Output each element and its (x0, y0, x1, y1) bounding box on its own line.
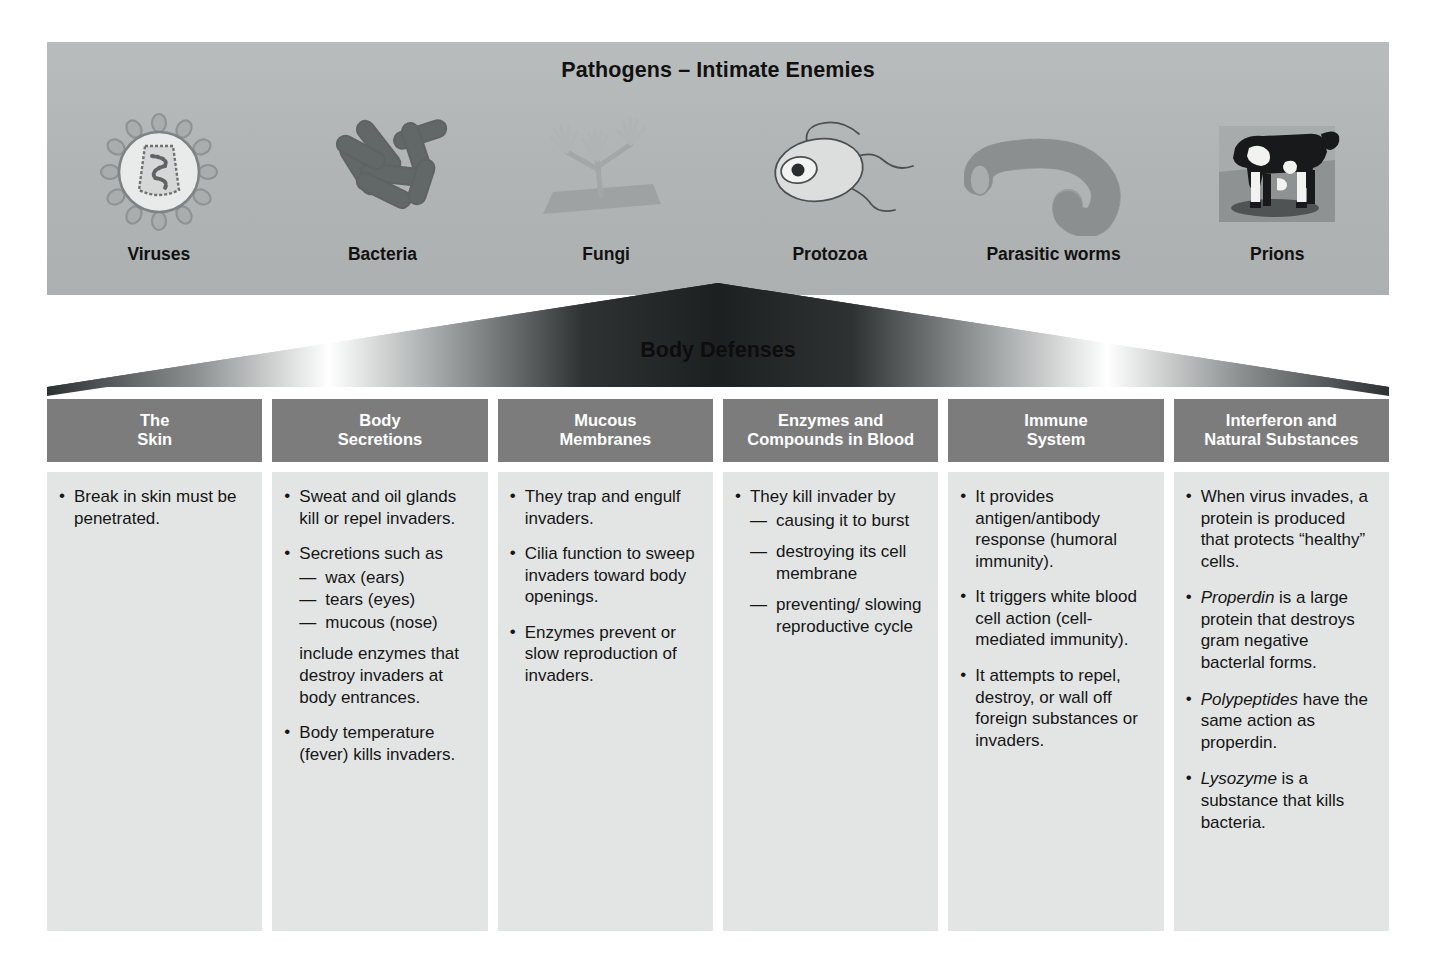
column-body: They kill invader by causing it to burst… (723, 472, 938, 931)
bullet-list: Sweat and oil glands kill or repel invad… (282, 486, 475, 765)
term-properdin: Properdin (1201, 588, 1275, 607)
list-item: Cilia function to sweep invaders toward … (508, 543, 701, 608)
column-immune-system: Immune System It provides antigen/antibo… (948, 399, 1163, 931)
sub-list-item: tears (eyes) (299, 589, 475, 611)
sub-list-item: causing it to burst (750, 510, 926, 532)
defense-columns: The Skin Break in skin must be penetrate… (47, 399, 1389, 931)
fungus-hyphae-icon (494, 102, 718, 242)
column-enzymes-compounds-in-blood: Enzymes and Compounds in Blood They kill… (723, 399, 938, 931)
sub-list-item: preventing/ slowing reproductive cycle (750, 594, 926, 637)
column-header: Body Secretions (272, 399, 487, 462)
header-line-2: Compounds in Blood (747, 430, 914, 449)
term-lysozyme: Lysozyme (1201, 769, 1277, 788)
cow-photo-icon (1165, 102, 1389, 242)
column-body: Sweat and oil glands kill or repel invad… (272, 472, 487, 931)
body-defenses-banner: Body Defenses (47, 283, 1389, 396)
pathogen-parasitic-worms: Parasitic worms (942, 102, 1166, 292)
pathogens-banner: Pathogens – Intimate Enemies (47, 42, 1389, 295)
list-item: Enzymes prevent or slow reproduction of … (508, 622, 701, 687)
pathogen-protozoa: Protozoa (718, 102, 942, 292)
pathogen-label: Prions (1250, 244, 1304, 265)
sub-list: wax (ears) tears (eyes) mucous (nose) (299, 567, 475, 634)
header-line-2: Secretions (338, 430, 422, 449)
column-body: They trap and engulf invaders. Cilia fun… (498, 472, 713, 931)
header-line-1: Enzymes and (778, 411, 883, 430)
diagram-canvas: Pathogens – Intimate Enemies (0, 0, 1436, 962)
list-item: When virus invades, a protein is produce… (1184, 486, 1377, 572)
bullet-list: They kill invader by causing it to burst… (733, 486, 926, 637)
list-item-text: They kill invader by (750, 487, 896, 506)
pathogen-label: Protozoa (792, 244, 867, 265)
pathogen-label: Viruses (127, 244, 190, 265)
sub-list-item: wax (ears) (299, 567, 475, 589)
bullet-list: It provides antigen/antibody response (h… (958, 486, 1151, 751)
sub-list-item: destroying its cell membrane (750, 541, 926, 584)
banner-title: Pathogens – Intimate Enemies (47, 58, 1389, 83)
list-item-continuation: include enzymes that destroy invaders at… (282, 643, 475, 708)
bullet-list: When virus invades, a protein is produce… (1184, 486, 1377, 833)
list-item: Lysozyme is a substance that kills bacte… (1184, 768, 1377, 833)
list-item: It provides antigen/antibody response (h… (958, 486, 1151, 572)
column-header: Enzymes and Compounds in Blood (723, 399, 938, 462)
column-body: When virus invades, a protein is produce… (1174, 472, 1389, 931)
list-item: Secretions such as wax (ears) tears (eye… (282, 543, 475, 633)
bullet-list: Break in skin must be penetrated. (57, 486, 250, 529)
list-item: They trap and engulf invaders. (508, 486, 701, 529)
sub-list: causing it to burst destroying its cell … (750, 510, 926, 638)
header-line-1: Immune (1024, 411, 1087, 430)
bullet-list: They trap and engulf invaders. Cilia fun… (508, 486, 701, 687)
column-body-secretions: Body Secretions Sweat and oil glands kil… (272, 399, 487, 931)
worm-icon (942, 102, 1166, 242)
list-item-text: Secretions such as (299, 544, 443, 563)
pathogen-label: Parasitic worms (986, 244, 1120, 265)
list-item: Polypeptides have the same action as pro… (1184, 689, 1377, 754)
defenses-title: Body Defenses (47, 338, 1389, 363)
header-line-2: Membranes (559, 430, 651, 449)
protozoan-flagellate-icon (718, 102, 942, 242)
pathogen-label: Fungi (582, 244, 630, 265)
column-the-skin: The Skin Break in skin must be penetrate… (47, 399, 262, 931)
header-line-2: Natural Substances (1204, 430, 1358, 449)
pathogen-prions: Prions (1165, 102, 1389, 292)
column-body: It provides antigen/antibody response (h… (948, 472, 1163, 931)
bacteria-rods-icon (271, 102, 495, 242)
header-line-1: The (140, 411, 169, 430)
header-line-2: System (1027, 430, 1086, 449)
column-header: Immune System (948, 399, 1163, 462)
column-header: Interferon and Natural Substances (1174, 399, 1389, 462)
term-polypeptides: Polypeptides (1201, 690, 1298, 709)
list-item: Properdin is a large protein that destro… (1184, 587, 1377, 673)
column-header: The Skin (47, 399, 262, 462)
column-body: Break in skin must be penetrated. (47, 472, 262, 931)
list-item: Body temperature (fever) kills invaders. (282, 722, 475, 765)
virus-icon (47, 102, 271, 242)
pathogen-row: Viruses (47, 102, 1389, 292)
list-item: Sweat and oil glands kill or repel invad… (282, 486, 475, 529)
list-item: It attempts to repel, destroy, or wall o… (958, 665, 1151, 751)
header-line-2: Skin (137, 430, 172, 449)
list-item: It triggers white blood cell action (cel… (958, 586, 1151, 651)
list-item: They kill invader by causing it to burst… (733, 486, 926, 637)
column-interferon-natural-substances: Interferon and Natural Substances When v… (1174, 399, 1389, 931)
pathogen-fungi: Fungi (494, 102, 718, 292)
pathogen-bacteria: Bacteria (271, 102, 495, 292)
column-mucous-membranes: Mucous Membranes They trap and engulf in… (498, 399, 713, 931)
column-header: Mucous Membranes (498, 399, 713, 462)
header-line-1: Interferon and (1226, 411, 1337, 430)
header-line-1: Mucous (574, 411, 636, 430)
header-line-1: Body (359, 411, 400, 430)
pathogen-viruses: Viruses (47, 102, 271, 292)
sub-list-item: mucous (nose) (299, 612, 475, 634)
pathogen-label: Bacteria (348, 244, 417, 265)
list-item: Break in skin must be penetrated. (57, 486, 250, 529)
